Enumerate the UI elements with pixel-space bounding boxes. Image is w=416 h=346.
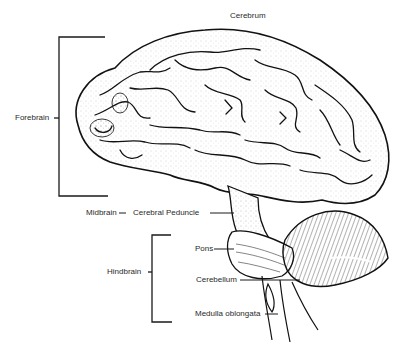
brain-illustration [0,0,416,346]
label-cerebral-peduncle: Cerebral Peduncle [133,208,199,218]
hindbrain-bracket [148,235,172,322]
cerebellum-shape [283,211,388,286]
label-pons: Pons [195,244,213,254]
label-cerebrum: Cerebrum [230,11,266,21]
brain-diagram: Cerebrum Forebrain Midbrain Cerebral Ped… [0,0,416,346]
label-cerebellum: Cerebellum [196,275,237,285]
label-midbrain: Midbrain [86,208,117,218]
label-forebrain: Forebrain [15,113,49,123]
cerebrum-shape [76,29,389,203]
label-hindbrain: Hindbrain [107,267,141,277]
label-medulla-oblongata: Medulla oblongata [195,309,260,319]
